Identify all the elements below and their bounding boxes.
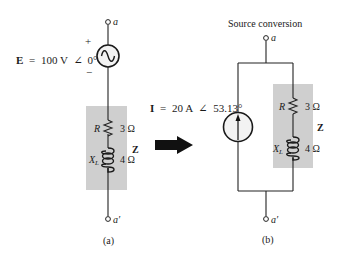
current-angle: 53.13° — [213, 102, 242, 114]
resistor-value: 3 Ω — [120, 123, 135, 134]
angle-symbol: ∠ — [198, 102, 207, 114]
source-plus-sign: + — [85, 35, 91, 47]
figure-a: a + − E = 100 V ∠ 0° R 3 Ω Z XL 4 Ω — [16, 16, 139, 247]
source-conversion-diagram: a + − E = 100 V ∠ 0° R 3 Ω Z XL 4 Ω — [0, 0, 341, 263]
current-source-label: I = 20 A ∠ 53.13° — [150, 102, 242, 114]
equals-sign: = — [29, 54, 35, 66]
terminal-b-bottom — [264, 217, 269, 222]
current-magnitude: 20 A — [172, 102, 193, 114]
terminal-b-bottom-label: a′ — [271, 214, 279, 225]
terminal-a-top — [106, 20, 111, 25]
inductor-value: 4 Ω — [120, 154, 135, 165]
resistor-symbol: R — [93, 123, 100, 134]
voltage-angle: 0° — [88, 54, 98, 66]
terminal-a-top-label: a — [113, 16, 118, 27]
terminal-b-top-label: a — [271, 32, 276, 43]
current-symbol: I — [150, 102, 154, 114]
resistor-symbol: R — [278, 101, 285, 112]
voltage-source-label: E = 100 V ∠ 0° — [16, 54, 97, 66]
figure-b-title: Source conversion — [228, 18, 302, 29]
angle-symbol: ∠ — [74, 54, 83, 66]
impedance-box-a — [86, 106, 127, 190]
right-arrow-icon — [155, 136, 193, 154]
inductor-value: 4 Ω — [305, 143, 320, 154]
caption-b: (b) — [262, 234, 274, 246]
voltage-symbol: E — [16, 54, 23, 66]
caption-a: (a) — [103, 235, 114, 247]
terminal-a-bottom — [106, 217, 111, 222]
terminal-a-bottom-label: a′ — [113, 214, 121, 225]
equals-sign: = — [160, 102, 166, 114]
source-minus-sign: − — [86, 66, 92, 78]
terminal-b-top — [264, 36, 269, 41]
resistor-value: 3 Ω — [305, 101, 320, 112]
figure-b: Source conversion a I = 20 A ∠ 53.13° R — [150, 18, 324, 246]
impedance-label: Z — [317, 122, 324, 133]
voltage-magnitude: 100 V — [41, 54, 68, 66]
